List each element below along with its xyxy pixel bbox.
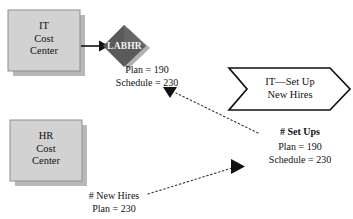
activity-chevron <box>229 68 350 110</box>
diagram-vector-layer <box>0 0 353 219</box>
it-driver-values: Plan = 190 Schedule = 230 <box>92 64 202 89</box>
new-hires-to-activity-arrowhead <box>231 159 245 174</box>
set-ups-values: Plan = 190 Schedule = 230 <box>252 141 348 166</box>
new-hires-values: # New Hires Plan = 230 <box>58 190 170 215</box>
hr-cost-center-box <box>10 120 82 181</box>
set-ups-title: # Set Ups <box>252 126 348 139</box>
it-cost-center-box <box>8 10 80 71</box>
diagram-canvas: IT Cost Center HR Cost Center LABHR IT—S… <box>0 0 353 219</box>
resource-driver-diamond-highlight <box>124 25 146 46</box>
